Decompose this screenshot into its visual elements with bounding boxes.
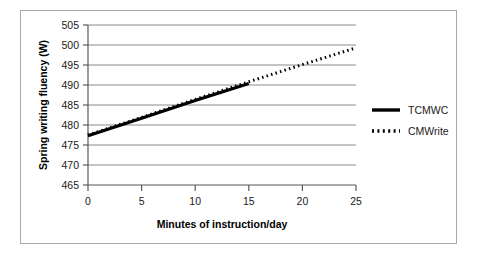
series-line-tcmwc [88,83,249,135]
y-tick-label: 470 [61,159,79,171]
y-tick-label: 500 [61,39,79,51]
legend-label-tcmwc: TCMWC [408,104,449,116]
x-tick-label: 0 [85,195,91,207]
y-axis-title: Spring writing fluency (W) [37,40,49,170]
x-tick-label: 25 [350,195,362,207]
y-tick-label: 480 [61,119,79,131]
y-tick-label: 495 [61,59,79,71]
y-tick-label: 475 [61,139,79,151]
legend-label-cmwrite: CMWrite [408,125,449,137]
figure-canvas: 505 500 495 490 485 480 475 470 465 0 5 … [0,0,477,259]
x-axis-ticks [88,185,356,191]
line-chart: 505 500 495 490 485 480 475 470 465 0 5 … [0,0,477,259]
x-tick-label: 20 [297,195,309,207]
x-tick-label: 10 [189,195,201,207]
y-tick-label: 505 [61,19,79,31]
x-tick-label: 5 [139,195,145,207]
x-axis-title: Minutes of instruction/day [157,218,288,230]
y-tick-label: 490 [61,79,79,91]
y-axis-ticks [83,25,88,185]
gridlines [88,25,356,165]
x-tick-label: 15 [243,195,255,207]
legend: TCMWC CMWrite [372,104,449,137]
y-tick-label: 465 [61,179,79,191]
y-tick-label: 485 [61,99,79,111]
